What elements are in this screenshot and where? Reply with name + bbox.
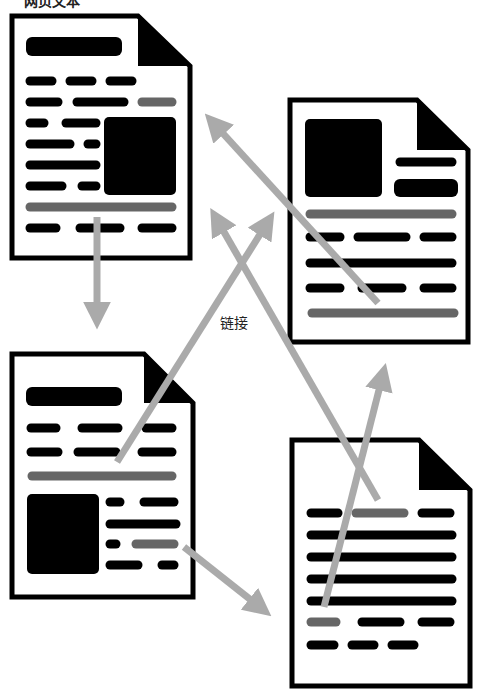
web-link-diagram (0, 0, 481, 691)
document-bottom-right (292, 440, 470, 686)
link-label: 链接 (220, 312, 248, 332)
document-top-right (290, 100, 468, 342)
document-top-left (12, 16, 190, 258)
